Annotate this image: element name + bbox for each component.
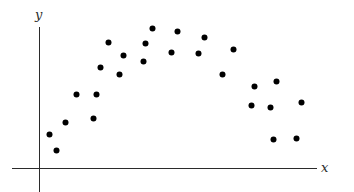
data-point — [74, 92, 80, 98]
data-point — [117, 72, 123, 78]
data-point — [231, 47, 237, 53]
scatter-plot: y x — [0, 0, 354, 192]
data-point — [268, 105, 274, 111]
data-point — [54, 148, 60, 154]
data-point — [202, 35, 208, 41]
data-point — [274, 79, 280, 85]
data-point — [294, 136, 300, 142]
data-point — [169, 50, 175, 56]
data-point — [47, 132, 53, 138]
data-point — [299, 100, 305, 106]
data-point — [106, 40, 112, 46]
data-point — [249, 103, 255, 109]
data-point — [94, 92, 100, 98]
y-axis-label: y — [34, 7, 43, 22]
data-point — [220, 72, 226, 78]
data-point — [98, 65, 104, 71]
data-point — [150, 26, 156, 32]
x-axis-label: x — [321, 160, 329, 175]
data-point — [63, 120, 69, 126]
data-point — [121, 53, 127, 59]
data-points — [47, 26, 305, 154]
data-point — [271, 137, 277, 143]
data-point — [252, 84, 258, 90]
data-point — [196, 51, 202, 57]
data-point — [175, 29, 181, 35]
data-point — [91, 116, 97, 122]
data-point — [141, 59, 147, 65]
data-point — [143, 41, 149, 47]
